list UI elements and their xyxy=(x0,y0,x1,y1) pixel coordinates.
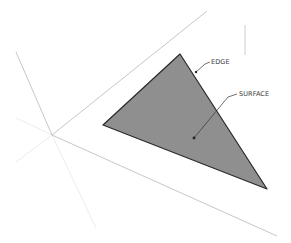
axis-line-downright xyxy=(52,135,277,236)
surface-label: SURFACE xyxy=(239,91,269,98)
hidden-axes xyxy=(16,118,96,228)
diagram-canvas: EDGE SURFACE xyxy=(0,0,291,243)
geometry-drawing xyxy=(0,0,291,243)
axis-line-upleft xyxy=(16,52,52,135)
hidden-axis-left xyxy=(16,135,52,162)
surface-leader-dot xyxy=(193,137,196,140)
edge-leader-dot xyxy=(195,71,197,73)
hidden-axis-down xyxy=(52,135,96,228)
edge-leader-line xyxy=(196,62,210,72)
edge-label: EDGE xyxy=(211,59,230,66)
hidden-axis-upleft xyxy=(16,118,52,135)
